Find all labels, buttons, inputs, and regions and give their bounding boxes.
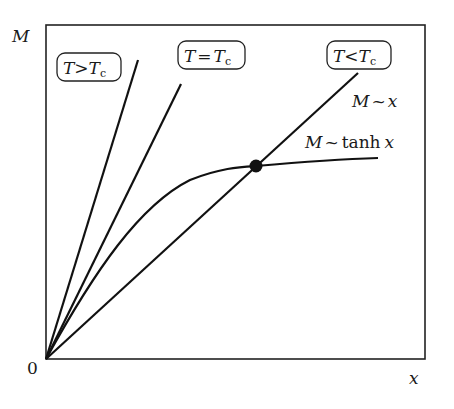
line-t-less-tc xyxy=(46,73,358,359)
label-m-linear: M~x xyxy=(351,91,398,111)
line-t-equal-tc xyxy=(46,84,181,359)
line-t-greater-tc xyxy=(46,60,138,359)
diagram-canvas: T>Tc T=Tc T<Tc M~x M~tanhx M x 0 xyxy=(0,0,454,409)
origin-label: 0 xyxy=(27,358,38,378)
label-t-equal-tc: T=Tc xyxy=(184,46,231,68)
label-t-less-tc: T<Tc xyxy=(333,46,376,68)
intersection-dot xyxy=(250,160,263,173)
label-m-tanh: M~tanhx xyxy=(304,132,395,152)
x-axis-label: x xyxy=(409,368,419,388)
label-t-greater-tc: T>Tc xyxy=(63,58,106,80)
y-axis-label: M xyxy=(11,26,30,46)
